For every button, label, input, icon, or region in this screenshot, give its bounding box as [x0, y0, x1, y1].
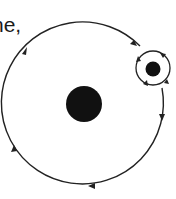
- satellite-body: [146, 62, 161, 77]
- central-body: [66, 86, 102, 122]
- arrow-icon: [159, 114, 165, 121]
- orbit-diagram: [0, 0, 176, 199]
